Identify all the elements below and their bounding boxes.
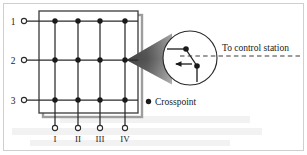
crosspoint-1-IV <box>122 18 127 23</box>
crosspoint-2-II <box>75 57 80 62</box>
row-terminal-1 <box>21 18 26 23</box>
crosspoint-2-I <box>52 57 57 62</box>
crosspoint-3-IV <box>122 97 127 102</box>
column-terminal-IV <box>122 125 127 130</box>
crosspoint-3-III <box>97 97 102 102</box>
control-station-label: To control station <box>222 43 289 53</box>
magnifier-circle <box>163 31 217 85</box>
detail-contact-lower <box>194 63 200 69</box>
crosspoint-3-I <box>52 97 57 102</box>
row-terminal-2 <box>21 57 26 62</box>
crosspoint-2-III <box>97 57 102 62</box>
crosspoint-1-II <box>75 18 80 23</box>
legend-crosspoint-dot-icon <box>146 99 151 104</box>
column-label-I: I <box>54 134 57 144</box>
column-label-IV: IV <box>120 134 130 144</box>
column-terminal-II <box>75 125 80 130</box>
crosspoint-3-II <box>75 97 80 102</box>
row-label-3: 3 <box>11 96 16 106</box>
legend-crosspoint-label: Crosspoint <box>155 97 197 107</box>
column-label-II: II <box>75 134 81 144</box>
row-label-2: 2 <box>11 56 16 66</box>
column-terminal-III <box>97 125 102 130</box>
column-terminal-I <box>52 125 57 130</box>
crosspoint-1-I <box>52 18 57 23</box>
column-label-III: III <box>96 134 105 144</box>
row-label-1: 1 <box>11 17 16 27</box>
crossbar-matrix-figure: 1 2 3 I II III IV To control s <box>0 0 307 155</box>
figure-canvas: 1 2 3 I II III IV To control s <box>0 0 307 155</box>
crosspoint-2-IV <box>122 57 127 62</box>
detail-contact-upper <box>183 46 189 52</box>
crosspoint-1-III <box>97 18 102 23</box>
row-terminal-3 <box>21 97 26 102</box>
